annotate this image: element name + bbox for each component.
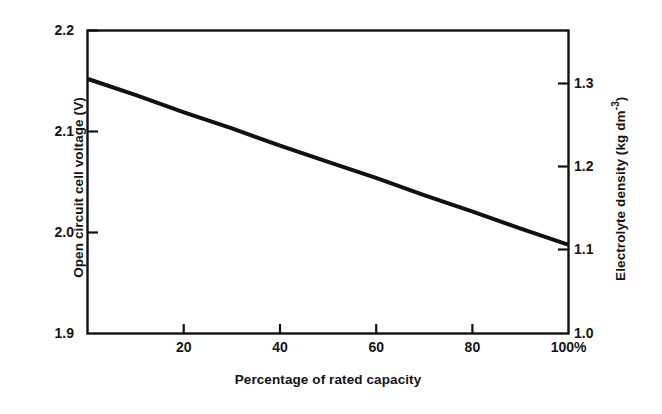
y-axis-right-title-superscript: -3 (610, 101, 621, 110)
bottom-axis-ticks (184, 324, 473, 334)
y-left-tick-label-1.9: 1.9 (28, 325, 74, 341)
right-axis-ticks (558, 84, 569, 250)
x-axis-title: Percentage of rated capacity (87, 372, 569, 387)
y-left-tick-label-2.2: 2.2 (28, 22, 74, 38)
plot-frame (88, 31, 569, 334)
chart-figure: 2.2 2.1 2.0 1.9 1.3 1.2 1.1 1.0 20 40 60… (0, 0, 662, 414)
x-tick-label-100: 100% (539, 339, 599, 355)
left-axis-ticks (88, 31, 99, 233)
x-tick-label-80: 80 (442, 339, 502, 355)
y-axis-left-title: Open circuit cell voltage (V) (71, 38, 86, 338)
y-axis-right-title: Electrolyte density (kg dm-3) (610, 39, 628, 339)
x-tick-label-20: 20 (154, 339, 214, 355)
y-left-tick-label-2.0: 2.0 (28, 224, 74, 240)
y-axis-right-title-tail: ) (613, 97, 628, 102)
y-left-tick-label-2.1: 2.1 (28, 123, 74, 139)
x-tick-label-40: 40 (250, 339, 310, 355)
x-tick-label-60: 60 (346, 339, 406, 355)
data-line-series-1 (88, 79, 568, 245)
y-axis-right-title-main: Electrolyte density (kg dm (613, 110, 628, 281)
